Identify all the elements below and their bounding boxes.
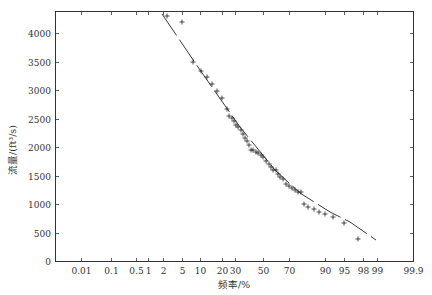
x-tick-label: 0.01 [71, 266, 91, 276]
y-tick-label: 3000 [28, 86, 51, 96]
y-tick-label: 3500 [28, 58, 51, 68]
data-point-plus-marker [356, 237, 361, 242]
x-tick-label: 0.1 [104, 266, 118, 276]
x-tick-label: 99 [372, 266, 384, 276]
data-point-plus-marker [299, 190, 304, 195]
x-tick-label: 95 [339, 266, 351, 276]
data-point-plus-marker [191, 60, 196, 65]
data-point-plus-marker [210, 82, 215, 87]
x-tick-label: 30 [230, 266, 242, 276]
y-tick-label: 2000 [28, 143, 51, 153]
data-point-plus-marker [165, 14, 170, 19]
data-point-plus-marker [306, 205, 311, 210]
y-axis-ticks: 05001000150020002500300035004000 [28, 29, 413, 267]
x-tick-label: 20 [217, 266, 229, 276]
y-tick-label: 4000 [28, 29, 51, 39]
x-axis-title: 频率/% [218, 279, 250, 290]
data-point-plus-marker [302, 202, 307, 207]
data-point-plus-marker [331, 215, 336, 220]
y-tick-label: 0 [45, 257, 51, 267]
x-tick-label: 2 [161, 266, 167, 276]
x-tick-label: 1 [146, 266, 152, 276]
y-tick-label: 1000 [28, 200, 51, 210]
data-point-plus-marker [323, 212, 328, 217]
data-point-plus-marker [205, 75, 210, 80]
x-tick-label: 0.5 [129, 266, 144, 276]
chart: 0.010.10.512510203050709095989999.9 0500… [0, 0, 432, 295]
x-tick-label: 90 [320, 266, 332, 276]
y-tick-label: 1500 [28, 172, 51, 182]
data-point-plus-marker [264, 159, 269, 164]
data-points [165, 14, 361, 242]
data-point-plus-marker [180, 20, 185, 25]
x-tick-label: 70 [284, 266, 296, 276]
x-tick-label: 50 [258, 266, 270, 276]
data-point-plus-marker [312, 207, 317, 212]
data-point-plus-marker [342, 221, 347, 226]
x-tick-label: 99.9 [403, 266, 423, 276]
x-tick-label: 98 [358, 266, 370, 276]
fitted-curve [162, 14, 376, 240]
data-point-plus-marker [215, 89, 220, 94]
x-tick-label: 10 [195, 266, 207, 276]
y-tick-label: 500 [34, 229, 51, 239]
x-axis-ticks: 0.010.10.512510203050709095989999.9 [71, 12, 423, 277]
plot-frame [56, 12, 414, 262]
data-point-plus-marker [317, 210, 322, 215]
data-point-plus-marker [220, 96, 225, 101]
x-tick-label: 5 [180, 266, 186, 276]
y-axis-title: 流量/(ft³/s) [7, 125, 18, 175]
y-tick-label: 2500 [28, 115, 51, 125]
